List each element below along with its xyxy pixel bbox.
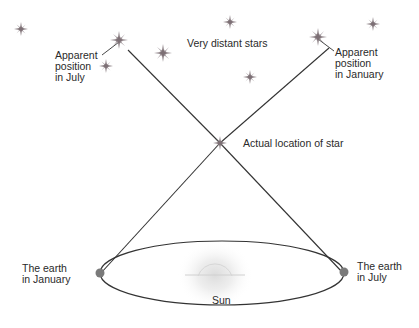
sight-lines — [101, 39, 343, 273]
distant-star-icon — [243, 70, 257, 84]
parallax-diagram: Apparent position in July Very distant s… — [0, 0, 419, 328]
label-earth-july: The earth in July — [357, 261, 402, 283]
sight-line-july-far — [128, 50, 220, 143]
label-actual-location: Actual location of star — [243, 138, 343, 149]
distant-star-icon — [14, 22, 28, 36]
leader-january — [318, 39, 334, 51]
label-apparent-position-january: Apparent position in January — [335, 47, 383, 80]
label-sun: Sun — [212, 295, 231, 306]
distant-star-icon — [366, 17, 380, 31]
distant-star-icon — [223, 15, 237, 29]
sight-line-january-far — [220, 48, 329, 143]
earth-july-icon — [340, 268, 349, 277]
label-apparent-position-july: Apparent position in July — [55, 50, 98, 83]
leader-july — [102, 42, 119, 55]
distant-star-icon — [154, 44, 172, 62]
earth-january-icon — [96, 269, 105, 278]
label-earth-january: The earth in January — [22, 263, 70, 285]
distant-star-icon — [99, 59, 113, 73]
label-very-distant-stars: Very distant stars — [187, 38, 268, 49]
